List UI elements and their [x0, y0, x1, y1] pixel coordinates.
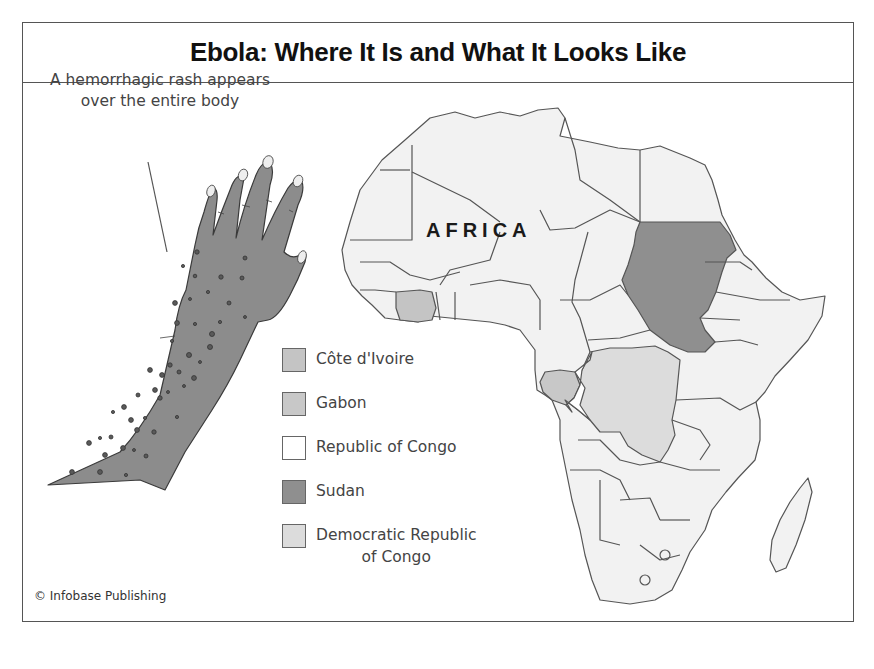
legend-label-line-2: of Congo	[316, 546, 477, 568]
rash-hand-illustration	[48, 154, 308, 490]
caption-line-1: A hemorrhagic rash appears	[30, 70, 290, 91]
rash-caption: A hemorrhagic rash appears over the enti…	[30, 70, 290, 112]
legend-label: Republic of Congo	[316, 436, 457, 458]
africa-region-label: AFRICA	[426, 219, 532, 242]
legend-label: Gabon	[316, 392, 367, 414]
legend-item-gabon: Gabon	[282, 392, 477, 422]
caption-pointer-line	[148, 162, 167, 252]
legend-swatch	[282, 480, 306, 504]
legend-label: Sudan	[316, 480, 365, 502]
legend-swatch	[282, 392, 306, 416]
legend-swatch	[282, 436, 306, 460]
legend-item-republic-of-congo: Republic of Congo	[282, 436, 477, 466]
legend-label: Democratic Republic of Congo	[316, 524, 477, 568]
map-legend: Côte d'Ivoire Gabon Republic of Congo Su…	[282, 348, 477, 572]
legend-label-line-1: Democratic Republic	[316, 524, 477, 546]
legend-label: Côte d'Ivoire	[316, 348, 414, 370]
legend-item-drc: Democratic Republic of Congo	[282, 524, 477, 572]
caption-line-2: over the entire body	[30, 91, 290, 112]
legend-swatch	[282, 524, 306, 548]
cote-divoire-region	[396, 290, 436, 322]
copyright-credit: © Infobase Publishing	[34, 589, 166, 603]
legend-item-sudan: Sudan	[282, 480, 477, 510]
legend-item-cote-divoire: Côte d'Ivoire	[282, 348, 477, 378]
legend-swatch	[282, 348, 306, 372]
